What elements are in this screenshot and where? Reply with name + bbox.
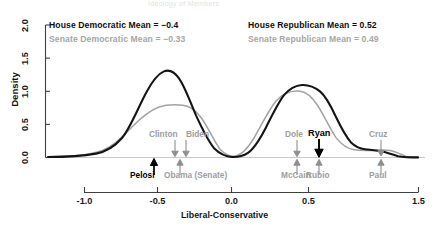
y-tick-1-5: 1.5 xyxy=(21,47,30,71)
marker-arrow-dole xyxy=(294,140,300,157)
annotation-house-republican-mean: House Republican Mean = 0.52 xyxy=(248,21,377,30)
x-axis-label: Liberal-Conservative xyxy=(181,211,268,220)
x-tick-0-0: 0.0 xyxy=(211,197,252,206)
marker-label-clinton: Clinton xyxy=(149,130,178,138)
annotation-house-democratic-mean: House Democratic Mean = −0.4 xyxy=(49,21,178,30)
x-tick-neg-0-5: -0.5 xyxy=(137,197,178,206)
marker-arrow-ryan xyxy=(315,139,323,157)
marker-label-ryan: Ryan xyxy=(308,129,330,138)
y-axis-label: Density xyxy=(9,60,20,120)
marker-label-biden: Biden xyxy=(186,130,209,138)
marker-arrow-cruz xyxy=(378,140,384,156)
marker-label-rubio: Rubio xyxy=(306,171,330,179)
annotation-senate-republican-mean: Senate Republican Mean = 0.49 xyxy=(248,35,379,44)
y-tick-1-0: 1.0 xyxy=(21,80,30,104)
figure-title: Ideology of Members xyxy=(148,0,219,7)
x-tick-0-5: 0.5 xyxy=(288,197,329,206)
marker-arrow-biden xyxy=(183,140,189,157)
annotation-senate-democratic-mean: Senate Democratic Mean = −0.33 xyxy=(49,35,185,44)
marker-label-obama: Obama (Senate) xyxy=(164,171,227,179)
density-plot-figure: Ideology of Members xyxy=(0,0,435,226)
marker-label-pelosi: Pelosi xyxy=(130,171,154,179)
marker-label-dole: Dole xyxy=(285,130,303,138)
x-axis xyxy=(84,187,419,193)
marker-label-cruz: Cruz xyxy=(369,130,387,138)
house-density-curve xyxy=(48,71,418,158)
marker-arrow-clinton xyxy=(172,140,178,157)
x-tick-neg-1-0: -1.0 xyxy=(64,197,105,206)
x-tick-1-5: 1.5 xyxy=(398,197,435,206)
marker-label-paul: Paul xyxy=(369,171,387,179)
y-tick-2-0: 2.0 xyxy=(21,14,30,38)
y-tick-0-0: 0.0 xyxy=(21,146,30,170)
y-tick-0-5: 0.5 xyxy=(21,113,30,137)
senate-density-curve xyxy=(48,91,418,157)
y-axis xyxy=(46,25,51,158)
